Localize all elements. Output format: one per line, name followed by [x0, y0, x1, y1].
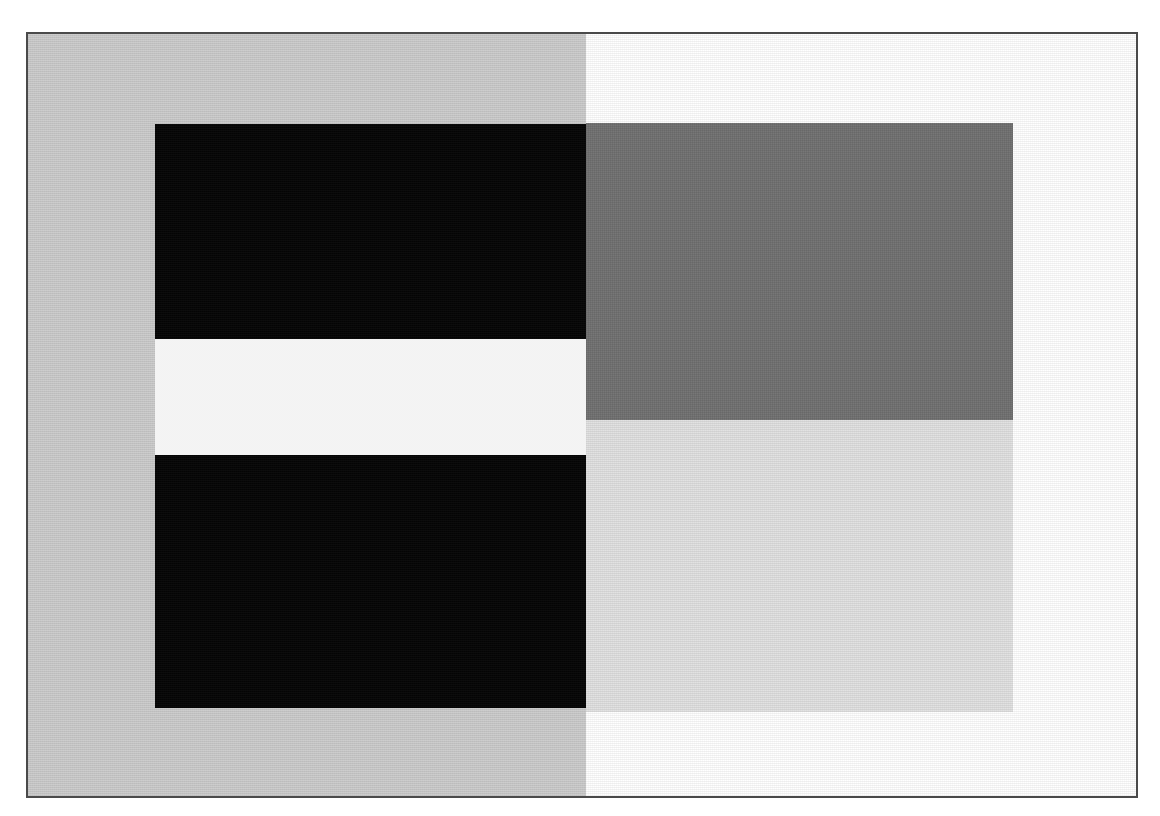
patch-lower-black-bar	[155, 455, 586, 708]
patch-upper-right-dark-gray	[586, 123, 1013, 420]
patch-lower-right-light-gray	[586, 420, 1013, 712]
plate-frame	[26, 32, 1138, 798]
patch-center-white-band	[155, 339, 586, 455]
patch-upper-black-bar	[155, 124, 586, 339]
figure-canvas	[0, 0, 1160, 816]
